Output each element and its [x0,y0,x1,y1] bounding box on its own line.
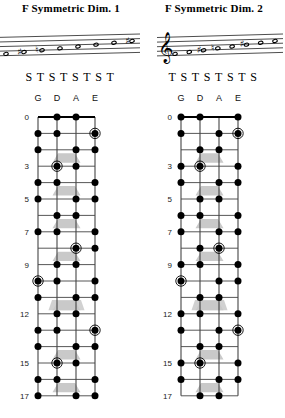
note-dot [73,360,80,367]
note-head [93,43,98,47]
note-dot [197,146,204,153]
interval-label: T [83,70,93,84]
fret-inlay-markers [192,153,228,392]
note-dot [35,294,42,301]
string-name-e: E [235,93,241,103]
note-dot [178,360,185,367]
note-dot [35,392,42,399]
root-note-dot [197,163,204,170]
interval-sequence-2: TSTSTSTS [143,70,285,85]
note-head [3,52,8,56]
sharp-icon: ♯ [240,38,245,49]
note-dot [197,261,204,268]
interval-label: T [192,70,202,84]
note-dot [92,245,99,252]
note-dot [73,392,80,399]
note-dot [235,360,242,367]
fret-number: 12 [20,310,29,319]
note-dot [92,392,99,399]
note-dot [216,294,223,301]
note-head [172,52,177,56]
interval-label: T [37,70,47,84]
interval-label: S [250,70,259,84]
note-dot [197,245,204,252]
note-dot [73,212,80,219]
note-dot [92,278,99,285]
string-name-a: A [216,93,222,103]
string-name-e: E [92,93,98,103]
interval-label: S [181,70,190,84]
scale-panel-1: F Symmetric Dim. 1 ♯♮♯ STSTSTST GDAE 035… [0,0,142,418]
interval-label: S [95,70,104,84]
note-dot [216,376,223,383]
note-dot [178,376,185,383]
fret-number: 0 [25,113,30,122]
fret-number-labels: 03579121517 [20,113,29,401]
fret-number: 7 [25,228,30,237]
root-note-dot [235,327,242,334]
note-dot [178,327,185,334]
note-dot [92,196,99,203]
note-dot [35,228,42,235]
fret-number: 5 [168,195,173,204]
root-note-dot [92,130,99,137]
interval-label: S [26,70,35,84]
note-dot [54,376,61,383]
fretboard-diagram-1: 03579121517 [0,107,142,418]
note-dot [54,212,61,219]
fret-inlay-markers [49,153,85,392]
fret-number: 3 [25,162,30,171]
treble-clef-icon: 𝄞 [158,32,173,64]
note-dot [35,327,42,334]
note-dot [235,261,242,268]
note-head [272,39,277,43]
music-staff-2: 𝄞♯♮♯ [143,24,285,66]
interval-sequence-1: STSTSTST [0,70,142,85]
note-head: ♯ [125,35,134,46]
note-dot [54,327,61,334]
note-head [75,44,80,48]
root-note-dot [92,327,99,334]
sheet-page: F Symmetric Dim. 1 ♯♮♯ STSTSTST GDAE 035… [0,0,285,418]
interval-label: T [60,70,70,84]
root-note-dot [178,278,185,285]
fret-number: 12 [163,310,172,319]
note-dot [216,179,223,186]
note-dot [197,392,204,399]
note-dot [235,310,242,317]
note-dot [73,114,80,121]
interval-label: T [169,70,179,84]
note-head [57,46,62,50]
note-head: ♮ [211,42,220,53]
string-name-g: G [177,93,184,103]
fret-number: 7 [168,228,173,237]
interval-label: T [238,70,248,84]
note-dot [178,179,185,186]
note-dot [35,179,42,186]
root-note-dot [54,163,61,170]
note-dot [178,261,185,268]
root-note-dot [197,360,204,367]
fret-number: 15 [163,359,172,368]
note-dot [73,163,80,170]
note-dot [216,327,223,334]
note-dot [73,310,80,317]
root-note-dot [54,360,61,367]
interval-label: T [107,70,117,84]
note-dot [216,146,223,153]
note-dot [216,228,223,235]
note-dot [178,310,185,317]
note-dot [92,343,99,350]
note-head [111,41,116,45]
note-dot [54,130,61,137]
note-dot [235,228,242,235]
note-dot [92,294,99,301]
note-dot [73,294,80,301]
note-dot [73,146,80,153]
interval-label: T [215,70,225,84]
root-note-dot [235,130,242,137]
interval-label: S [227,70,236,84]
note-dot [35,146,42,153]
string-name-g: G [34,93,41,103]
root-note-dot [216,245,223,252]
